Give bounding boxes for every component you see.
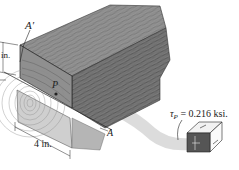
label-a: A	[107, 128, 113, 138]
label-height-dimension: in.	[1, 51, 10, 60]
tau-leader	[178, 120, 183, 140]
label-p: P	[52, 80, 58, 90]
tau-subscript: P	[174, 113, 178, 121]
label-shear-stress: τP = 0.216 ksi.	[170, 109, 228, 119]
stress-element	[187, 122, 222, 152]
beam-diagram: A′ in. P A 4 in. τP = 0.216 ksi.	[0, 0, 239, 170]
label-width-dimension: 4 in.	[34, 139, 52, 149]
label-a-prime: A′	[25, 20, 34, 31]
tau-value: = 0.216 ksi.	[178, 108, 228, 119]
point-p	[54, 92, 57, 95]
